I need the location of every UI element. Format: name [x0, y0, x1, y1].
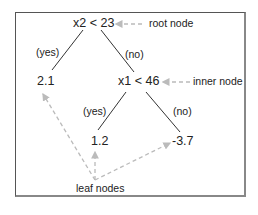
root-edge-yes-label: (yes)	[36, 47, 59, 58]
inner-node: x1 < 46	[118, 75, 159, 88]
root-edge-no-label: (no)	[125, 49, 144, 60]
root-node: x2 < 23	[73, 17, 114, 30]
leaf-node-right: -3.7	[172, 135, 194, 148]
leaf-arrow-right	[95, 143, 170, 180]
leaf-node-middle: 1.2	[91, 135, 108, 148]
inner-node-annotation: inner node	[193, 76, 243, 87]
inner-edge-yes-label: (yes)	[83, 106, 106, 117]
leaf-nodes-annotation: leaf nodes	[76, 183, 124, 194]
inner-edge-no-label: (no)	[173, 106, 192, 117]
tree-edges	[0, 0, 258, 215]
leaf-node-left: 2.1	[37, 75, 54, 88]
root-node-annotation: root node	[149, 18, 193, 29]
